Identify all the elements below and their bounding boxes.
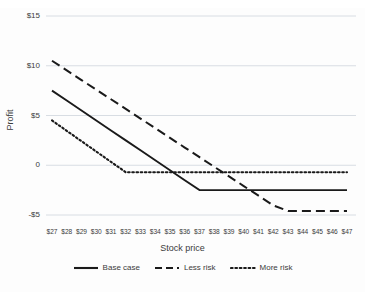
y-axis-title: Profit xyxy=(5,98,15,142)
legend-item[interactable]: Base case xyxy=(73,263,140,272)
legend-swatch-dotted xyxy=(230,264,256,272)
legend-swatch-solid xyxy=(73,264,99,272)
x-axis-tick-label: $47 xyxy=(337,228,357,235)
legend-swatch-dashed xyxy=(154,264,180,272)
y-axis-tick-label: $15 xyxy=(14,11,40,20)
series-line xyxy=(52,91,347,191)
series-lines xyxy=(52,61,347,211)
legend-item[interactable]: Less risk xyxy=(154,263,216,272)
gridlines xyxy=(46,16,356,215)
profit-stock-price-line-chart: $15$10$50-$5 $27$28$29$30$31$32$33$34$35… xyxy=(0,0,365,292)
y-axis-tick-label: -$5 xyxy=(14,210,40,219)
y-axis-tick-label: $10 xyxy=(14,61,40,70)
y-axis-tick-label: $5 xyxy=(14,111,40,120)
series-line xyxy=(52,120,347,172)
legend-label: Base case xyxy=(103,263,140,272)
legend-item[interactable]: More risk xyxy=(230,263,293,272)
y-axis-tick-label: 0 xyxy=(14,160,40,169)
chart-legend: Base caseLess riskMore risk xyxy=(0,263,365,272)
legend-label: Less risk xyxy=(184,263,216,272)
legend-label: More risk xyxy=(260,263,293,272)
x-axis-title: Stock price xyxy=(0,243,365,253)
series-line xyxy=(52,61,347,211)
